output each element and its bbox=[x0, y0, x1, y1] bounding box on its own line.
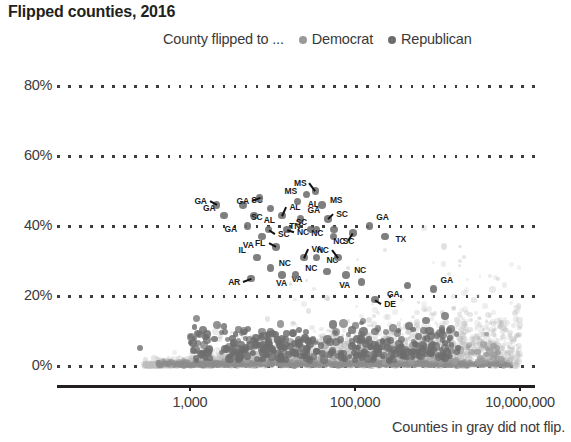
data-point-flipped-republican bbox=[408, 349, 416, 357]
data-point-no-flip bbox=[190, 356, 196, 362]
data-point-flipped-republican bbox=[274, 337, 280, 343]
data-point-no-flip bbox=[335, 361, 338, 364]
data-point-no-flip bbox=[386, 331, 392, 337]
data-point-no-flip bbox=[419, 360, 423, 364]
data-point-no-flip bbox=[290, 360, 294, 364]
data-point-no-flip bbox=[425, 327, 430, 332]
data-point-flipped-republican bbox=[436, 329, 444, 337]
data-point-no-flip bbox=[305, 349, 308, 352]
data-point-no-flip bbox=[295, 353, 301, 359]
data-point-no-flip bbox=[307, 357, 313, 363]
data-point-no-flip bbox=[378, 353, 381, 356]
data-point-no-flip bbox=[403, 343, 409, 349]
data-point-no-flip bbox=[271, 358, 275, 362]
data-point-no-flip bbox=[349, 353, 355, 359]
data-point-no-flip bbox=[500, 338, 503, 341]
data-point-no-flip bbox=[339, 354, 344, 359]
data-point-no-flip bbox=[458, 356, 461, 359]
data-point-no-flip bbox=[232, 357, 238, 363]
data-point-no-flip bbox=[318, 360, 322, 364]
data-point-flipped-republican bbox=[403, 348, 411, 356]
data-point-no-flip bbox=[443, 319, 449, 325]
state-label: NC bbox=[317, 245, 329, 255]
data-point-no-flip bbox=[411, 353, 417, 359]
data-point-no-flip bbox=[202, 357, 209, 364]
data-point-no-flip bbox=[287, 356, 291, 360]
data-point-no-flip bbox=[505, 357, 510, 362]
data-point-flipped-republican bbox=[303, 355, 310, 362]
data-point-flipped-republican bbox=[357, 335, 365, 343]
data-point-flipped-republican bbox=[359, 355, 365, 361]
data-point-no-flip bbox=[454, 317, 460, 323]
data-point-no-flip bbox=[391, 344, 394, 347]
data-point-no-flip bbox=[446, 344, 449, 347]
data-point-no-flip bbox=[276, 359, 279, 362]
legend-label-republican: Republican bbox=[401, 31, 472, 47]
data-point-no-flip bbox=[486, 333, 490, 337]
data-point-no-flip bbox=[503, 327, 508, 332]
data-point-no-flip bbox=[255, 352, 258, 355]
data-point-no-flip bbox=[314, 338, 318, 342]
data-point-no-flip bbox=[436, 340, 441, 345]
data-point-no-flip bbox=[404, 349, 409, 354]
data-point-no-flip bbox=[423, 342, 426, 345]
data-point-no-flip bbox=[332, 346, 337, 351]
data-point-no-flip bbox=[358, 356, 364, 362]
data-point-no-flip bbox=[166, 360, 170, 364]
data-point-flipped-democrat bbox=[484, 332, 489, 337]
data-point-no-flip bbox=[338, 349, 343, 354]
data-point-no-flip bbox=[334, 359, 338, 363]
data-point-no-flip bbox=[478, 328, 484, 334]
data-point-no-flip bbox=[506, 360, 511, 365]
data-point-no-flip bbox=[252, 358, 259, 365]
data-point-no-flip bbox=[311, 360, 314, 363]
data-point-flipped-democrat bbox=[263, 346, 268, 351]
data-point-no-flip bbox=[424, 331, 429, 336]
data-point-no-flip bbox=[226, 360, 230, 364]
data-point-no-flip bbox=[252, 354, 259, 361]
data-point-no-flip bbox=[204, 354, 207, 357]
data-point-no-flip bbox=[489, 340, 493, 344]
data-point-no-flip bbox=[375, 359, 379, 363]
data-point-flipped-republican bbox=[228, 353, 233, 358]
data-point-no-flip bbox=[476, 338, 482, 344]
data-point-no-flip bbox=[210, 360, 214, 364]
data-point-no-flip bbox=[497, 351, 503, 357]
data-point-no-flip bbox=[376, 349, 382, 355]
data-point-flipped-republican bbox=[431, 347, 437, 353]
data-point-no-flip bbox=[425, 360, 428, 363]
data-point-no-flip bbox=[233, 359, 237, 363]
data-point-no-flip bbox=[517, 322, 523, 328]
data-point-no-flip bbox=[449, 358, 453, 362]
data-point-no-flip bbox=[427, 348, 431, 352]
data-point-no-flip bbox=[271, 359, 277, 365]
data-point-no-flip bbox=[444, 342, 450, 348]
data-point-no-flip bbox=[407, 337, 412, 342]
data-point-no-flip bbox=[340, 355, 346, 361]
data-point-flipped-republican bbox=[258, 328, 265, 335]
data-point-no-flip bbox=[338, 355, 344, 361]
data-point-flipped-democrat bbox=[273, 356, 280, 363]
data-point-no-flip bbox=[376, 352, 381, 357]
data-point-no-flip bbox=[441, 342, 444, 345]
data-point-no-flip bbox=[447, 357, 453, 363]
data-point-no-flip bbox=[170, 359, 176, 365]
data-point-no-flip bbox=[477, 322, 482, 327]
data-point-no-flip bbox=[198, 361, 201, 364]
data-point-no-flip bbox=[161, 359, 167, 365]
data-point-flipped-republican bbox=[435, 354, 442, 361]
data-point-no-flip bbox=[344, 360, 347, 363]
data-point-no-flip bbox=[181, 357, 186, 362]
data-point-no-flip bbox=[411, 349, 417, 355]
data-point-no-flip bbox=[500, 329, 505, 334]
data-point-no-flip bbox=[328, 359, 331, 362]
data-point-no-flip bbox=[447, 331, 452, 336]
data-point-no-flip bbox=[471, 349, 476, 354]
data-point-no-flip bbox=[355, 353, 358, 356]
data-point-flipped-republican bbox=[352, 345, 359, 352]
data-point-no-flip bbox=[489, 321, 493, 325]
data-point-no-flip bbox=[235, 359, 238, 362]
data-point-no-flip bbox=[400, 358, 405, 363]
data-point-no-flip bbox=[309, 356, 313, 360]
data-point-no-flip bbox=[449, 335, 453, 339]
